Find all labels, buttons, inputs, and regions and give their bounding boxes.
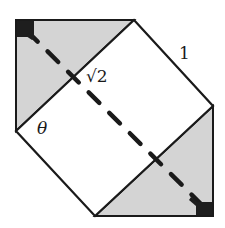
diagonal-length-label: √2 xyxy=(86,66,108,86)
folded-square-diagram: √2 1 θ xyxy=(0,0,225,228)
side-length-label: 1 xyxy=(179,43,190,63)
angle-label: θ xyxy=(37,118,47,138)
